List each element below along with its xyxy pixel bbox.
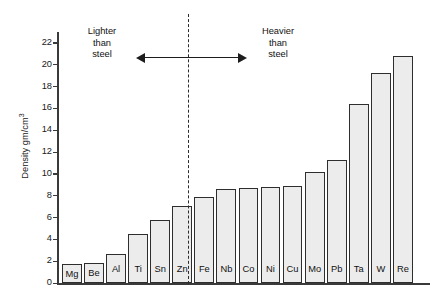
y-tick-mark xyxy=(53,130,57,131)
right-arrow-shaft xyxy=(186,57,240,58)
annotation-line: than xyxy=(70,38,134,50)
y-axis-title-exponent: 3 xyxy=(18,113,25,117)
y-tick-label: 0 xyxy=(24,278,52,287)
y-tick-mark xyxy=(53,108,57,109)
bar-label-pb: Pb xyxy=(327,264,347,274)
bar-ti xyxy=(128,234,148,283)
bar-re xyxy=(393,56,413,283)
y-tick-mark xyxy=(53,42,57,43)
y-axis-line xyxy=(57,32,59,284)
y-tick-mark xyxy=(53,152,57,153)
bar-label-cu: Cu xyxy=(283,264,303,274)
bar-ta xyxy=(349,104,369,283)
x-axis-line xyxy=(57,283,430,285)
annotation-line: Heavier xyxy=(246,26,310,38)
y-tick-label: 12 xyxy=(24,147,52,156)
bar-label-ti: Ti xyxy=(128,264,148,274)
bar-label-al: Al xyxy=(106,264,126,274)
annotation-heavier-than-steel: Heavierthansteel xyxy=(246,26,310,61)
y-tick-mark xyxy=(53,261,57,262)
y-tick-label: 8 xyxy=(24,191,52,200)
y-tick-mark xyxy=(53,195,57,196)
y-tick-mark xyxy=(53,173,57,174)
annotation-line: Lighter xyxy=(70,26,134,38)
bar-label-sn: Sn xyxy=(150,264,170,274)
annotation-lighter-than-steel: Lighterthansteel xyxy=(70,26,134,61)
y-tick-label: 6 xyxy=(24,213,52,222)
bar-w xyxy=(371,73,391,283)
left-arrow-head-icon xyxy=(136,53,145,63)
y-tick-label: 20 xyxy=(24,60,52,69)
y-tick-label: 22 xyxy=(24,38,52,47)
bar-label-nb: Nb xyxy=(216,264,236,274)
y-tick-label: 2 xyxy=(24,256,52,265)
y-tick-mark xyxy=(53,283,57,284)
annotation-line: steel xyxy=(70,49,134,61)
annotation-line: steel xyxy=(246,49,310,61)
y-tick-label: 18 xyxy=(24,82,52,91)
y-tick-label: 4 xyxy=(24,234,52,243)
bar-label-mo: Mo xyxy=(305,264,325,274)
y-tick-mark xyxy=(53,86,57,87)
bar-label-co: Co xyxy=(239,264,259,274)
y-tick-mark xyxy=(53,217,57,218)
bar-label-ni: Ni xyxy=(261,264,281,274)
bar-label-be: Be xyxy=(84,268,104,278)
left-arrow-shaft xyxy=(144,57,192,58)
bar-label-fe: Fe xyxy=(194,264,214,274)
y-tick-mark xyxy=(53,239,57,240)
right-arrow-head-icon xyxy=(238,53,247,63)
steel-density-divider xyxy=(188,14,189,284)
density-bar-chart: Density gm/cm3 0246810121416182022 MgBeA… xyxy=(0,0,437,306)
bar-label-ta: Ta xyxy=(349,264,369,274)
y-tick-label: 16 xyxy=(24,103,52,112)
y-tick-label: 14 xyxy=(24,125,52,134)
bar-label-zn: Zn xyxy=(172,264,192,274)
annotation-line: than xyxy=(246,38,310,50)
bar-label-w: W xyxy=(371,264,391,274)
y-tick-label: 10 xyxy=(24,169,52,178)
bar-label-re: Re xyxy=(393,264,413,274)
bar-label-mg: Mg xyxy=(62,269,82,279)
y-tick-mark xyxy=(53,64,57,65)
